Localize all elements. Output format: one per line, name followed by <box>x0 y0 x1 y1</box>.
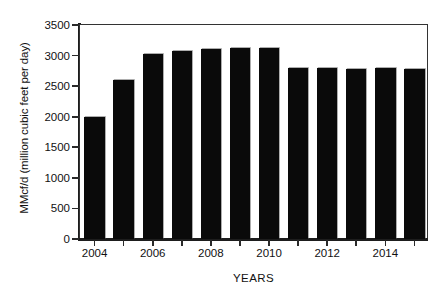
x-axis-tick <box>210 240 212 246</box>
bar-2009 <box>230 48 250 239</box>
x-axis-tick <box>355 240 357 246</box>
x-axis-tick-label: 2012 <box>304 247 350 259</box>
x-axis-tick <box>152 240 154 246</box>
x-axis-tick <box>297 240 299 246</box>
x-axis-tick-label: 2004 <box>72 247 118 259</box>
bar-2008 <box>201 49 221 239</box>
x-axis-tick <box>385 240 387 246</box>
x-axis-tick <box>414 240 416 246</box>
y-axis-tick <box>72 116 79 118</box>
bar-2007 <box>172 51 192 239</box>
bar-2012 <box>317 68 337 239</box>
y-axis-tick <box>72 238 79 240</box>
bar-2010 <box>259 48 279 239</box>
x-axis-tick <box>268 240 270 246</box>
x-axis-title: YEARS <box>79 272 428 284</box>
y-axis-tick <box>72 177 79 179</box>
x-axis-tick <box>123 240 125 246</box>
x-axis-tick-label: 2010 <box>246 247 292 259</box>
bar-2015 <box>404 69 424 239</box>
x-axis-tick-label: 2014 <box>362 247 408 259</box>
bar-chart-figure: MMcf/d (million cubic feet per day) 0500… <box>0 0 446 300</box>
x-axis-tick-label: 2006 <box>130 247 176 259</box>
y-axis-tick <box>72 24 79 26</box>
x-axis-tick <box>181 240 183 246</box>
bar-2006 <box>143 54 163 239</box>
bar-2014 <box>375 68 395 239</box>
y-axis-tick <box>72 146 79 148</box>
y-axis-tick <box>72 55 79 57</box>
bar-2011 <box>288 68 308 239</box>
y-axis-tick <box>72 85 79 87</box>
y-axis-tick <box>72 208 79 210</box>
bar-2013 <box>346 69 366 239</box>
x-axis-tick <box>326 240 328 246</box>
x-axis-tick-label: 2008 <box>188 247 234 259</box>
x-axis-tick <box>239 240 241 246</box>
bar-2005 <box>113 80 133 239</box>
x-axis-tick <box>94 240 96 246</box>
bar-2004 <box>84 117 104 239</box>
